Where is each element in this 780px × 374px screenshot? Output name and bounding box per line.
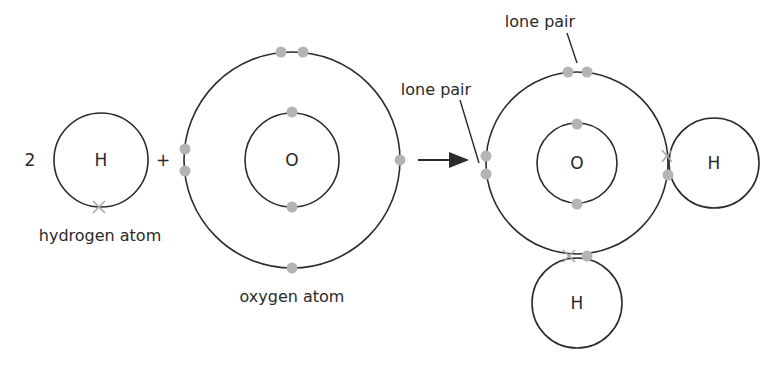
oxygen-symbol: O xyxy=(285,150,298,170)
plus-sign: + xyxy=(156,150,170,170)
hydrogen-symbol: H xyxy=(95,150,108,170)
water-formation-diagram: 2 H hydrogen atom + O oxygen atom O H H xyxy=(0,0,780,374)
lone-pair-label-left: lone pair xyxy=(401,80,472,99)
water-molecule: O H H lone pair lone pair xyxy=(401,12,759,348)
product-hydrogen-right-symbol: H xyxy=(708,153,721,173)
oxygen-atom-label: oxygen atom xyxy=(240,287,345,306)
hydrogen-atom: H xyxy=(54,113,148,213)
hydrogen-atom-label: hydrogen atom xyxy=(39,226,161,245)
oxygen-atom: O xyxy=(180,47,406,274)
lone-pair-label-top: lone pair xyxy=(505,12,576,31)
product-hydrogen-bottom-symbol: H xyxy=(571,293,584,313)
lone-pair-leader-top xyxy=(567,33,577,63)
product-oxygen-symbol: O xyxy=(570,153,583,173)
coefficient: 2 xyxy=(25,150,36,170)
lone-pair-leader-left xyxy=(460,100,479,163)
